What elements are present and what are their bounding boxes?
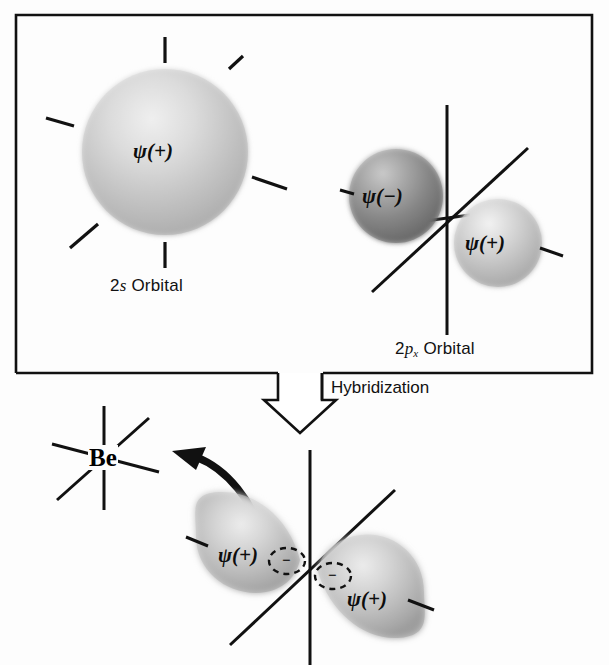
node-left-minus-label: − xyxy=(282,553,291,568)
s-orbital-psi-label: ψ(+) xyxy=(133,141,173,162)
p-orbital-psi-minus-label: ψ(−) xyxy=(362,186,403,207)
hybrid-right-psi-label: ψ(+) xyxy=(347,589,387,610)
be-atom-symbol: Be xyxy=(88,445,118,470)
s-orbital-caption: 2s Orbital xyxy=(110,277,183,294)
p-orbital-psi-plus-label: ψ(+) xyxy=(465,233,505,254)
p-caption-suffix: Orbital xyxy=(418,339,474,358)
node-right-minus-label: − xyxy=(328,568,337,583)
p-orbital-caption: 2px Orbital xyxy=(395,340,475,359)
orbital-hybridization-figure: ψ(+) 2s Orbital ψ(−) ψ(+) 2px Orbital Hy… xyxy=(0,0,609,665)
figure-graphics xyxy=(0,0,609,665)
s-caption-suffix: Orbital xyxy=(126,276,182,295)
hybrid-left-psi-label: ψ(+) xyxy=(218,545,258,566)
hybridization-label: Hybridization xyxy=(331,379,429,396)
s-caption-prefix: 2 xyxy=(110,276,120,295)
p-caption-prefix: 2 xyxy=(395,339,405,358)
hybridization-arrow xyxy=(264,373,336,433)
